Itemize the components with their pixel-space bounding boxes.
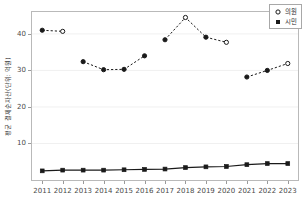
x-tick-mark [83,181,84,184]
legend-item-시민[interactable]: 시민 [273,17,297,26]
x-tick-label: 2019 [197,187,215,195]
chart-container: 평균 결제순자산(단위: 억원) 10203040 20112012201320… [0,0,308,208]
x-tick-mark [165,181,166,184]
data-point [204,35,208,39]
x-tick-label: 2012 [54,187,72,195]
x-tick-mark [247,181,248,184]
x-tick-mark [267,181,268,184]
series-line [83,56,144,70]
legend-label: 시민 [285,17,297,26]
x-tick-mark [145,181,146,184]
data-point [40,28,44,32]
series-line [42,30,62,31]
data-point [102,68,106,72]
x-tick-label: 2011 [33,187,51,195]
data-point [286,61,290,65]
data-point [102,168,106,172]
data-point [122,67,126,71]
series-line [165,17,226,42]
x-tick-label: 2016 [136,187,154,195]
y-tick-label: 20 [12,103,26,111]
data-point [245,163,249,167]
data-point [224,165,228,169]
data-point [122,168,126,172]
plot-svg [32,12,298,180]
y-tick-label: 10 [12,139,26,147]
x-tick-label: 2020 [217,187,235,195]
y-axis-ticks: 10203040 [12,11,31,181]
data-point [61,168,65,172]
data-point [40,169,44,173]
x-tick-label: 2013 [74,187,92,195]
legend-item-의원[interactable]: 의원 [273,7,297,16]
x-tick-mark [206,181,207,184]
y-tick-label: 30 [12,66,26,74]
plot-area [31,11,299,181]
data-point [184,166,188,170]
x-tick-label: 2022 [258,187,276,195]
chart-legend: 의원시민 [269,4,302,29]
x-tick-mark [288,181,289,184]
x-tick-mark [63,181,64,184]
x-tick-mark [124,181,125,184]
data-point [143,168,147,172]
data-point [286,162,290,166]
legend-label: 의원 [285,7,297,16]
data-point [265,68,269,72]
series-시민 [40,162,289,173]
data-point [265,162,269,166]
data-point [204,165,208,169]
x-tick-mark [104,181,105,184]
data-point [81,60,85,64]
y-tick-label: 40 [12,30,26,38]
x-tick-label: 2015 [115,187,133,195]
data-point [245,75,249,79]
x-axis-ticks: 2011201220132014201520162017201820192020… [31,181,299,203]
data-point [142,54,146,58]
data-point [163,38,167,42]
data-point [81,168,85,172]
filled-square-icon [273,18,282,26]
data-point [224,40,228,44]
data-point [183,15,187,19]
x-tick-label: 2023 [279,187,297,195]
x-tick-mark [42,181,43,184]
series-의원 [40,15,290,79]
x-tick-label: 2018 [177,187,195,195]
x-tick-mark [185,181,186,184]
y-axis-title-text: 평균 결제순자산(단위: 억원) [3,57,12,135]
data-point [163,167,167,171]
x-tick-mark [226,181,227,184]
x-tick-label: 2014 [95,187,113,195]
x-tick-label: 2021 [238,187,256,195]
x-tick-label: 2017 [156,187,174,195]
open-circle-icon [273,8,282,16]
data-point [61,29,65,33]
